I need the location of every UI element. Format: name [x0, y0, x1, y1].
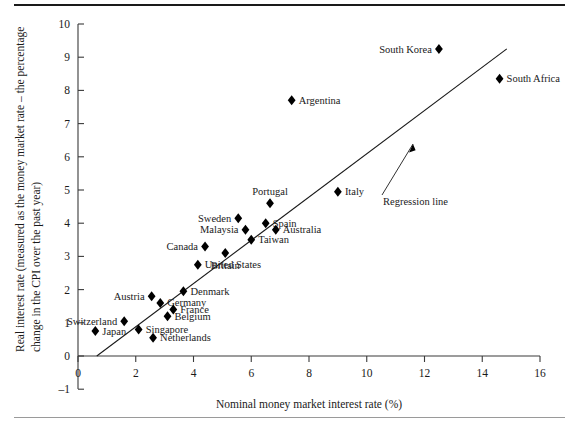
data-point-label: Canada — [167, 241, 199, 252]
y-tick-label: –1 — [58, 383, 71, 395]
data-point[interactable]: Denmark — [179, 286, 230, 297]
data-point-label: South Korea — [379, 44, 432, 55]
data-point-label: France — [180, 304, 209, 315]
data-point-label: Malaysia — [200, 224, 239, 235]
x-tick-label: 16 — [534, 367, 546, 379]
data-point-marker[interactable] — [221, 248, 229, 258]
data-point-marker[interactable] — [91, 326, 99, 336]
data-point-label: Australia — [283, 224, 322, 235]
x-tick-label: 2 — [133, 367, 139, 379]
data-point[interactable]: Japan — [91, 326, 127, 337]
y-tick-label: 8 — [64, 84, 70, 96]
data-point-marker[interactable] — [247, 235, 255, 245]
y-tick-label: 7 — [64, 118, 70, 130]
regression-annotation-label: Regression line — [383, 196, 448, 207]
data-point-marker[interactable] — [120, 316, 128, 326]
data-point-marker[interactable] — [135, 324, 143, 334]
y-tick-label: 0 — [64, 350, 70, 362]
data-point-label: Taiwan — [258, 234, 290, 245]
x-tick-label: 0 — [75, 367, 81, 379]
y-tick-label: 9 — [64, 51, 70, 63]
data-point-label: South Africa — [507, 73, 561, 84]
data-point[interactable]: Malaysia — [200, 224, 249, 235]
y-tick-label: 6 — [64, 151, 70, 163]
data-point[interactable]: Argentina — [288, 95, 341, 106]
data-point-marker[interactable] — [435, 44, 443, 54]
y-tick-label: 2 — [64, 284, 70, 296]
x-tick-label: 10 — [361, 367, 373, 379]
y-tick-label: 5 — [64, 184, 70, 196]
x-axis-ticks: 0246810121416 — [75, 356, 546, 379]
y-axis-title-line2: change in the CPI over the past year) — [30, 182, 43, 352]
data-point-label: Sweden — [198, 213, 232, 224]
data-point-marker[interactable] — [262, 218, 270, 228]
y-tick-label: 4 — [64, 217, 70, 229]
data-point[interactable]: Canada — [167, 241, 209, 252]
x-tick-label: 14 — [477, 367, 489, 379]
data-point-label: Italy — [345, 186, 365, 197]
data-point-label: Austria — [114, 291, 145, 302]
data-point[interactable]: Sweden — [198, 213, 242, 224]
data-point-marker[interactable] — [266, 198, 274, 208]
x-tick-label: 4 — [191, 367, 197, 379]
x-tick-label: 12 — [419, 367, 431, 379]
regression-annotation-leader — [382, 144, 413, 195]
data-point-marker[interactable] — [179, 286, 187, 296]
y-axis-title-line1: Real interest rate (measured as the mone… — [14, 27, 27, 352]
x-axis-title: Nominal money market interest rate (%) — [216, 398, 402, 411]
data-point-marker[interactable] — [242, 225, 250, 235]
data-point[interactable]: South Africa — [496, 73, 561, 84]
data-point-marker[interactable] — [201, 241, 209, 251]
scatter-plot: –1012345678910 0246810121416 Real intere… — [0, 0, 579, 421]
data-point-label: Britain — [211, 260, 241, 271]
data-point-marker[interactable] — [496, 74, 504, 84]
data-point-label: Portugal — [252, 186, 288, 197]
data-point[interactable]: Portugal — [252, 186, 288, 209]
data-point-marker[interactable] — [334, 187, 342, 197]
x-tick-label: 6 — [248, 367, 254, 379]
data-point-marker[interactable] — [234, 213, 242, 223]
figure-container: –1012345678910 0246810121416 Real intere… — [0, 0, 579, 421]
data-point-label: Argentina — [299, 95, 341, 106]
y-tick-label: 10 — [59, 18, 71, 30]
data-point-marker[interactable] — [288, 95, 296, 105]
regression-line-annotation: Regression line — [382, 144, 448, 207]
data-point[interactable]: Italy — [334, 186, 365, 197]
y-axis-title: Real interest rate (measured as the mone… — [14, 27, 43, 352]
data-point-marker[interactable] — [164, 311, 172, 321]
data-point[interactable]: Taiwan — [247, 234, 289, 245]
data-point-label: Japan — [102, 326, 127, 337]
x-tick-label: 8 — [306, 367, 312, 379]
data-point[interactable]: South Korea — [379, 44, 443, 55]
data-point-label: Switzerland — [67, 316, 118, 327]
data-point-label: Denmark — [190, 286, 230, 297]
data-point-marker[interactable] — [148, 291, 156, 301]
data-point[interactable]: Austria — [114, 291, 156, 302]
y-tick-label: 3 — [64, 250, 70, 262]
y-axis-ticks: –1012345678910 — [58, 18, 85, 395]
data-point-label: Netherlands — [160, 332, 211, 343]
data-point-marker[interactable] — [194, 260, 202, 270]
